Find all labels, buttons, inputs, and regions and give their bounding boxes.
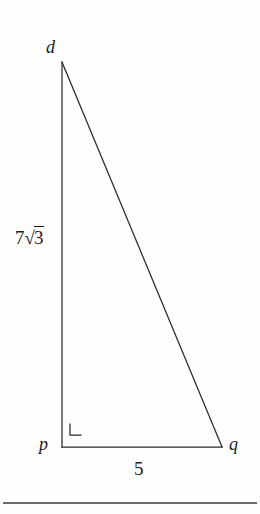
- radicand-value: 3: [34, 226, 45, 248]
- radical-coefficient: 7: [15, 227, 25, 248]
- vertex-label-d: d: [46, 38, 55, 56]
- side-length-label-vertical-leg: 7√3: [15, 228, 44, 247]
- hypotenuse-line: [62, 62, 222, 447]
- geometry-figure: d p q 7√3 5: [0, 0, 260, 514]
- vertex-label-p: p: [39, 435, 48, 453]
- vertex-label-q: q: [229, 435, 238, 453]
- side-length-label-base-leg: 5: [134, 459, 144, 478]
- right-angle-marker-icon: [70, 424, 81, 435]
